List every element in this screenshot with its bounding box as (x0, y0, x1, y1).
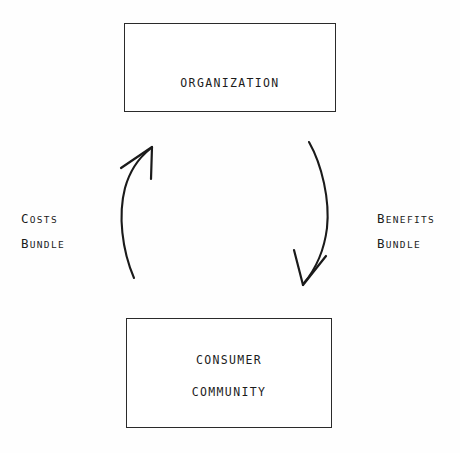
benefits-bundle-word-smallcaps: UNDLE (386, 239, 421, 250)
benefits-label-capital: B (377, 211, 386, 226)
costs-bundle-label-line2: BUNDLE (21, 232, 65, 257)
benefits-bundle-arrow-shaft (304, 142, 328, 283)
costs-label-capital: C (21, 211, 30, 226)
benefits-bundle-label-line1: BENEFITS (377, 207, 435, 232)
costs-bundle-word-smallcaps: UNDLE (30, 239, 65, 250)
organization-node: ORGANIZATION (124, 23, 336, 112)
benefits-bundle-arrow-head-barb-left (294, 250, 303, 285)
costs-bundle-label-line1: COSTS (21, 207, 65, 232)
costs-bundle-arrow-shaft (122, 149, 150, 278)
benefits-bundle-label-line2: BUNDLE (377, 232, 435, 257)
costs-label-smallcaps: OSTS (30, 214, 58, 225)
benefits-label-smallcaps: ENEFITS (386, 214, 435, 225)
benefits-bundle-edge-label: BENEFITS BUNDLE (377, 207, 435, 257)
benefits-bundle-word-capital: B (377, 236, 386, 251)
costs-bundle-arrow-head-barb-left (121, 147, 152, 168)
consumer-community-node: CONSUMER COMMUNITY (126, 318, 332, 428)
costs-bundle-word-capital: B (21, 236, 30, 251)
diagram-canvas: ORGANIZATION CONSUMER COMMUNITY COSTS BU… (0, 0, 460, 453)
consumer-community-node-label-line1: CONSUMER (127, 353, 331, 367)
benefits-bundle-arrow-head-barb-right (303, 256, 326, 285)
costs-bundle-arrow (121, 147, 152, 278)
consumer-community-node-label-line2: COMMUNITY (127, 385, 331, 399)
organization-node-label: ORGANIZATION (125, 76, 335, 90)
costs-bundle-edge-label: COSTS BUNDLE (21, 207, 65, 257)
benefits-bundle-arrow (294, 142, 328, 285)
costs-bundle-arrow-head-barb-right (151, 147, 152, 179)
